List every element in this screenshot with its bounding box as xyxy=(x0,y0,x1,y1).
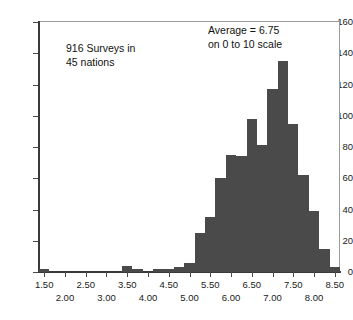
x-axis-tick xyxy=(273,272,274,277)
x-axis-tick xyxy=(169,272,170,277)
x-axis-tick xyxy=(86,272,87,277)
x-axis-tick-label: 2.00 xyxy=(48,293,82,303)
x-axis-tick xyxy=(252,272,253,277)
annotation-survey-count: 916 Surveys in 45 nations xyxy=(66,42,135,69)
histogram-bar xyxy=(257,145,267,272)
x-axis-tick-label: 6.00 xyxy=(214,293,248,303)
x-axis-tick-label: 4.50 xyxy=(152,280,186,290)
histogram-bar xyxy=(195,233,205,272)
annotation-average: Average = 6.75 on 0 to 10 scale xyxy=(208,24,282,51)
x-axis-tick xyxy=(44,272,45,277)
x-axis-tick-label: 1.50 xyxy=(27,280,61,290)
histogram-bar xyxy=(278,61,288,272)
histogram-bar xyxy=(298,175,308,272)
histogram-bar xyxy=(215,178,225,272)
x-axis-tick xyxy=(335,272,336,277)
histogram-bar xyxy=(184,263,194,272)
x-axis-tick-label: 5.50 xyxy=(193,280,227,290)
x-axis-tick-label: 5.00 xyxy=(173,293,207,303)
x-axis-tick xyxy=(148,272,149,277)
x-axis-tick-label: 2.50 xyxy=(69,280,103,290)
histogram-bar xyxy=(319,249,329,272)
x-axis-tick-label: 3.00 xyxy=(89,293,123,303)
histogram-bar xyxy=(236,156,246,272)
histogram-bar xyxy=(309,211,319,272)
x-axis-tick xyxy=(293,272,294,277)
histogram-bar xyxy=(247,119,257,272)
histogram-bar xyxy=(205,217,215,272)
x-axis-tick-label: 7.50 xyxy=(276,280,310,290)
x-axis-tick xyxy=(106,272,107,277)
histogram-figure: 020406080100120140160 1.502.503.504.505.… xyxy=(0,0,353,320)
x-axis-tick-label: 7.00 xyxy=(256,293,290,303)
histogram-bar xyxy=(226,155,236,272)
x-axis-tick-label: 4.00 xyxy=(131,293,165,303)
histogram-bar xyxy=(267,89,277,272)
x-axis-tick-label: 8.50 xyxy=(318,280,352,290)
x-axis-tick-label: 6.50 xyxy=(235,280,269,290)
histogram-bar xyxy=(153,269,163,272)
x-axis-tick xyxy=(127,272,128,277)
x-axis-tick xyxy=(231,272,232,277)
x-axis-tick xyxy=(190,272,191,277)
histogram-bar xyxy=(288,124,298,272)
x-axis-tick xyxy=(314,272,315,277)
x-axis-tick-label: 3.50 xyxy=(110,280,144,290)
x-axis-tick-label: 8.00 xyxy=(297,293,331,303)
x-axis-tick xyxy=(210,272,211,277)
histogram-bar xyxy=(174,267,184,272)
x-axis-tick xyxy=(65,272,66,277)
histogram-bar xyxy=(132,269,142,272)
